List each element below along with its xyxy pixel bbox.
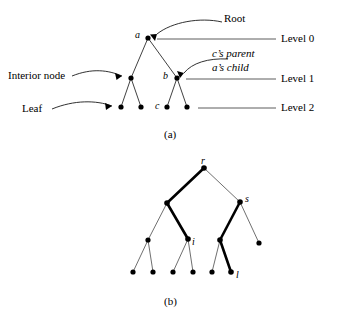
edge-b-s-v bbox=[240, 202, 259, 243]
edge-b-r-s bbox=[204, 168, 240, 202]
arrow-leaf bbox=[52, 102, 112, 109]
node-interior-left bbox=[128, 75, 133, 80]
edge-b-u-f5 bbox=[212, 240, 220, 272]
annotation-a-child: a’s child bbox=[212, 62, 249, 73]
node-p bbox=[164, 200, 170, 206]
panel-b-nodes bbox=[130, 165, 261, 275]
node-label-b: b bbox=[163, 71, 168, 81]
edge-b-i-f3 bbox=[173, 239, 188, 272]
node-b-leaf-3 bbox=[170, 269, 175, 274]
edge-b-u-l-highlight bbox=[220, 240, 231, 272]
node-i bbox=[185, 236, 191, 242]
edge-a-n1 bbox=[131, 38, 148, 78]
panel-b-edges-thin bbox=[133, 168, 259, 272]
node-label-i: i bbox=[192, 237, 195, 247]
edge-b-r-p-highlight bbox=[167, 168, 204, 203]
edge-b-q-f2 bbox=[148, 240, 153, 272]
node-label-r: r bbox=[201, 156, 205, 166]
panel-a-edges bbox=[121, 38, 187, 107]
level-label-0: Level 0 bbox=[281, 33, 314, 44]
annotation-interior-node: Interior node bbox=[8, 70, 65, 81]
node-leaf-4 bbox=[184, 104, 189, 109]
edge-n1-l2 bbox=[131, 78, 141, 107]
node-l bbox=[228, 269, 234, 275]
node-s bbox=[237, 199, 243, 205]
panel-b-edges-bold bbox=[167, 168, 240, 272]
caption-a: (a) bbox=[164, 129, 176, 140]
figure-canvas bbox=[0, 0, 349, 314]
node-b bbox=[174, 75, 179, 80]
node-leaf-2 bbox=[138, 104, 143, 109]
arrowhead-root bbox=[150, 34, 157, 41]
annotation-leaf: Leaf bbox=[22, 103, 42, 114]
node-label-s: s bbox=[245, 194, 249, 204]
node-v bbox=[256, 240, 261, 245]
arrow-interior-node bbox=[72, 71, 122, 76]
node-label-a: a bbox=[135, 30, 140, 40]
edge-b-p-q bbox=[148, 203, 167, 240]
level-label-2: Level 2 bbox=[281, 102, 314, 113]
node-label-l: l bbox=[236, 270, 239, 280]
node-b-leaf-2 bbox=[150, 269, 155, 274]
edge-n1-l1 bbox=[121, 78, 131, 107]
node-b-leaf-5 bbox=[209, 269, 214, 274]
node-b-leaf-1 bbox=[130, 269, 135, 274]
panel-a-arrows bbox=[52, 20, 228, 109]
annotation-root: Root bbox=[224, 13, 245, 24]
caption-b: (b) bbox=[164, 296, 177, 307]
node-q bbox=[145, 237, 150, 242]
tree-figure: a b c Root Interior node Leaf c’s parent… bbox=[0, 0, 349, 314]
node-a bbox=[145, 35, 150, 40]
edge-b-p-i-highlight bbox=[167, 203, 188, 239]
arrow-root bbox=[157, 20, 222, 34]
node-b-leaf-4 bbox=[190, 269, 195, 274]
edge-b-s-u-highlight bbox=[220, 202, 240, 240]
level-label-1: Level 1 bbox=[281, 73, 314, 84]
node-u bbox=[217, 237, 223, 243]
arrowhead-interior-node bbox=[115, 73, 122, 80]
annotation-c-parent: c’s parent bbox=[212, 48, 254, 59]
node-label-c: c bbox=[155, 101, 159, 111]
node-r bbox=[201, 165, 207, 171]
node-c bbox=[164, 104, 169, 109]
arrowhead-leaf bbox=[105, 103, 112, 110]
edge-b-c bbox=[167, 78, 177, 107]
edge-b-l4 bbox=[177, 78, 187, 107]
edge-b-q-f1 bbox=[133, 240, 148, 272]
node-leaf-1 bbox=[118, 104, 123, 109]
